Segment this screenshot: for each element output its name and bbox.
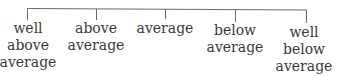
label-line: average [125,20,205,37]
category-below-average: below average [195,22,275,56]
category-average: average [125,20,205,37]
label-line: average [56,37,136,54]
category-above-average: above average [56,20,136,54]
label-line: average [0,54,68,71]
label-line: above [56,20,136,37]
label-line: average [195,39,275,56]
label-line: average [264,58,337,75]
label-line: below [264,41,337,58]
label-line: well [264,24,337,41]
label-line: below [195,22,275,39]
category-well-below-average: well below average [264,24,337,75]
